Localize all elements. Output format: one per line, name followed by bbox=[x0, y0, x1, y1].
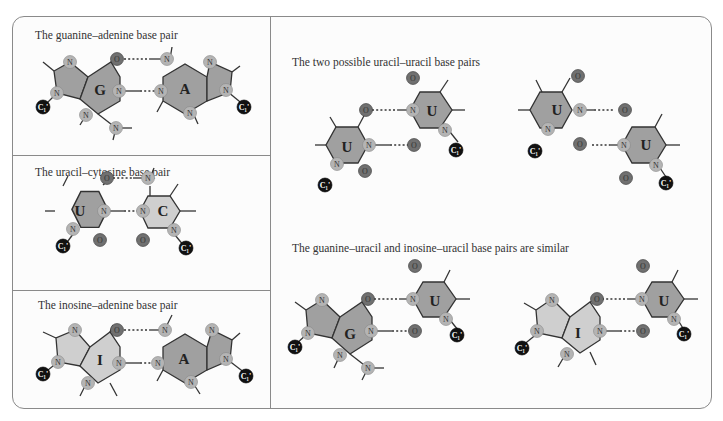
guanine-uracil-pair: G U bbox=[288, 260, 470, 381]
base-label-u-1a: U bbox=[342, 139, 353, 155]
base-label-a: A bbox=[180, 81, 191, 97]
base-label-u: U bbox=[75, 203, 86, 219]
uracil-uracil-pair-1: U U bbox=[315, 72, 465, 193]
base-label-c: C bbox=[158, 203, 169, 219]
base-label-u-2a: U bbox=[552, 102, 563, 118]
base-label-u3: U bbox=[430, 293, 441, 309]
base-label-u-1b: U bbox=[427, 103, 438, 119]
uracil-cytosine-pair: U C bbox=[45, 168, 196, 255]
base-label-u-2b: U bbox=[641, 137, 652, 153]
base-label-g2: G bbox=[344, 326, 356, 342]
uracil-uracil-pair-2: U U bbox=[518, 70, 680, 191]
inosine-uracil-pair: I U bbox=[515, 260, 698, 368]
base-label-g: G bbox=[94, 82, 106, 98]
base-label-i2: I bbox=[575, 325, 581, 341]
base-label-u4: U bbox=[659, 293, 670, 309]
inosine-adenine-pair: I A bbox=[36, 315, 253, 396]
guanine-adenine-pair: G A bbox=[36, 47, 251, 140]
base-label-a2: A bbox=[179, 351, 190, 367]
base-label-i: I bbox=[97, 352, 103, 368]
base-pair-diagrams: N O C₁' G A bbox=[0, 0, 723, 421]
